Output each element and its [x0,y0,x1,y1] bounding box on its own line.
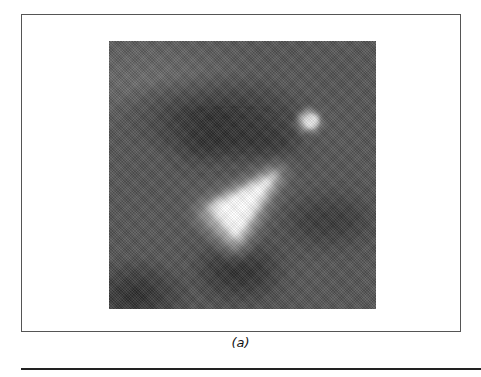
horizontal-rule [21,368,481,370]
image-grain [109,41,376,309]
panel-caption: (a) [0,335,481,350]
micrograph-image [109,41,376,309]
